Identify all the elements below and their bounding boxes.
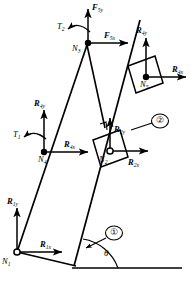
joint-n1 — [14, 249, 20, 255]
link-1-label: ① — [110, 228, 118, 237]
node-n3-label: N3 — [72, 44, 80, 54]
node-n2-label: N2 — [99, 155, 107, 165]
node-n1-label: N1 — [2, 257, 10, 267]
diagram-canvas — [0, 0, 194, 286]
angle-theta-label: θ — [104, 249, 108, 258]
v-joint-flank — [87, 45, 105, 128]
link-1-leader — [86, 238, 106, 248]
force-f5y-label: F5y — [92, 3, 103, 13]
node-n4-label: N4 — [38, 155, 46, 165]
force-r2y-label: R2y — [114, 125, 125, 135]
free-body-diagram: ① ② θ N1 N2 N3 N4 N5 T1 T2 R1y R1x R4y R… — [0, 0, 194, 286]
force-f5x-label: F5x — [104, 31, 115, 41]
node-n5-label: N5 — [140, 80, 148, 90]
torque-t2-label: T2 — [57, 22, 65, 32]
torque-t1-label: T1 — [13, 130, 21, 140]
force-r4y-b-label: R4y — [136, 26, 147, 36]
link-2-leader — [131, 123, 152, 130]
arrow-t2-torque — [68, 26, 90, 32]
force-r4x-label: R4x — [64, 140, 75, 150]
arrow-t1-torque — [24, 133, 46, 139]
link-1-foot — [17, 252, 76, 266]
force-r4y-label: R4y — [34, 99, 45, 109]
angle-arc — [83, 239, 118, 268]
link-2-label: ② — [156, 116, 164, 125]
force-r1x-label: R1x — [40, 240, 51, 250]
link-1-bar — [17, 45, 87, 252]
force-r2x-label: R2x — [128, 158, 139, 168]
joint-n2 — [107, 148, 113, 154]
force-r4x-b-label: R4x — [172, 65, 183, 75]
right-angle-mark — [100, 122, 107, 130]
force-r1y-label: R1y — [7, 197, 18, 207]
joint-n3 — [85, 40, 91, 46]
